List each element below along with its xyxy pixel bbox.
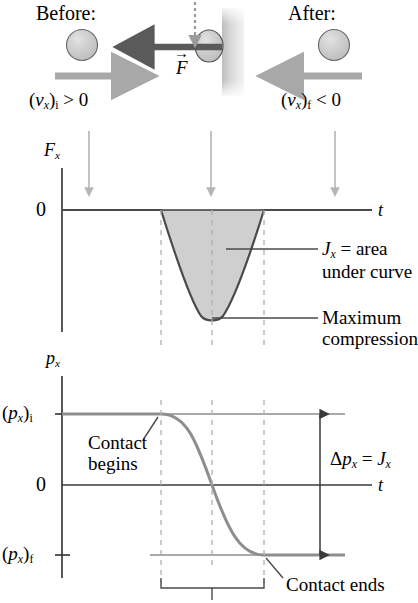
momentum-y-axis-base: p [46,348,55,368]
contact-begins-line2: begins [88,453,138,474]
momentum-vs-time-chart [55,376,372,600]
vertical-guide-arrows [89,131,335,188]
force-x-axis-label: t [378,200,383,220]
delta-momentum-annotation: Δpx = Jx [330,448,391,471]
force-y-axis-label: Fx [44,140,60,162]
impulse-symbol-sub: x [330,248,335,261]
velocity-initial-base: v [35,89,43,110]
force-zero-label: 0 [36,198,46,220]
max-compression-annotation: Maximum compression [322,307,418,350]
max-compression-line1: Maximum [322,307,401,328]
delta-symbol: Δ [330,448,342,469]
delta-momentum-base: p [342,448,352,469]
force-vector-label: F [176,57,188,78]
delta-impulse-sub: x [386,458,391,471]
before-label: Before: [36,2,96,24]
momentum-final-base: p [8,543,18,564]
force-vector-symbol: F [176,57,188,78]
after-label: After: [288,2,336,24]
impulse-annotation-line1: = area [340,238,387,259]
momentum-initial-post-sub: i [29,412,32,425]
equals-sign: = [362,448,373,469]
momentum-initial-base: p [8,402,18,423]
impulse-annotation: Jx = area under curve [322,238,412,283]
momentum-zero-label: 0 [36,473,46,495]
momentum-y-axis-sub: x [55,357,60,369]
impulse-annotation-line2: under curve [322,261,412,282]
momentum-final-label: (px)f [2,543,33,566]
delta-momentum-sub: x [352,458,357,471]
contact-ends-annotation: Contact ends [286,574,385,595]
momentum-x-axis-label: t [378,475,383,495]
velocity-initial-relation: > 0 [63,89,88,110]
impulse-momentum-figure: Before: After: F (vx)i > 0 (vx)f < 0 Fx … [0,0,418,603]
contact-begins-line1: Contact [88,432,147,453]
velocity-final-base: v [287,89,295,110]
contact-begins-annotation: Contact begins [88,432,147,475]
force-y-axis-base: F [44,140,55,160]
velocity-initial-label: (vx)i > 0 [29,89,88,112]
velocity-initial-post-sub: i [55,99,58,112]
ball-after [319,30,350,61]
wall [222,8,244,96]
velocity-final-relation: < 0 [316,89,341,110]
ball-before [67,30,98,61]
delta-impulse-symbol: J [377,448,385,469]
velocity-final-post-sub: f [307,99,311,112]
force-y-axis-sub: x [55,149,60,161]
momentum-initial-label: (px)i [2,402,33,425]
contact-ends-leader-line [266,558,283,578]
momentum-y-axis-label: px [46,348,60,370]
max-compression-line2: compression [322,328,418,349]
collision-duration-bracket [161,578,264,588]
momentum-final-post-sub: f [29,553,33,566]
velocity-final-label: (vx)f < 0 [281,89,341,112]
